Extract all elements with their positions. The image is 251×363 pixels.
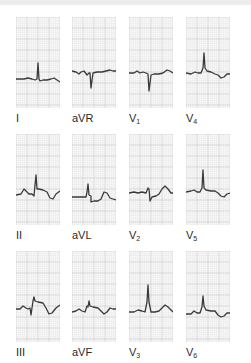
ecg-grid	[186, 251, 230, 342]
ecg-grid	[16, 17, 60, 108]
ecg-panel-avl	[72, 134, 116, 225]
lead-label-avf: aVF	[72, 347, 92, 358]
ecg-grid	[72, 17, 116, 108]
ecg-panel-v3	[129, 251, 173, 342]
lead-label-v2: V2	[129, 230, 140, 242]
ecg-panel-i	[16, 17, 60, 108]
ecg-panel-v1	[129, 17, 173, 108]
lead-label-v1: V1	[129, 113, 140, 125]
ecg-panel-v2	[129, 134, 173, 225]
ecg-grid	[16, 251, 60, 342]
ecg-grid	[186, 17, 230, 108]
ecg-panel-avf	[72, 251, 116, 342]
lead-label-i: I	[16, 113, 19, 124]
ecg-grid	[72, 251, 116, 342]
lead-label-avr: aVR	[72, 113, 93, 124]
ecg-grid	[72, 134, 116, 225]
ecg-panel-ii	[16, 134, 60, 225]
ecg-grid	[186, 134, 230, 225]
ecg-panel-v5	[186, 134, 230, 225]
lead-label-v3: V3	[129, 347, 140, 359]
ecg-panel-v6	[186, 251, 230, 342]
ecg-panel-v4	[186, 17, 230, 108]
lead-label-iii: III	[16, 347, 25, 358]
lead-label-ii: II	[16, 230, 22, 241]
ecg-grid	[129, 251, 173, 342]
lead-label-v4: V4	[186, 113, 197, 125]
lead-label-v5: V5	[186, 230, 197, 242]
lead-label-avl: aVL	[72, 230, 92, 241]
ecg-grid	[16, 134, 60, 225]
lead-label-v6: V6	[186, 347, 197, 359]
ecg-grid	[129, 17, 173, 108]
top-band	[0, 0, 251, 5]
ecg-grid	[129, 134, 173, 225]
ecg-panel-iii	[16, 251, 60, 342]
ecg-panel-avr	[72, 17, 116, 108]
